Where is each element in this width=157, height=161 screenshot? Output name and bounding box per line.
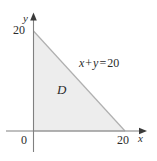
equation-plus-sign: + xyxy=(84,56,93,70)
figure-container: y x 20 20 0 D x+y=20 xyxy=(0,0,157,161)
x-axis-label: x xyxy=(138,133,143,144)
equation-equals-sign: = xyxy=(98,56,107,70)
region-d-label: D xyxy=(57,83,66,96)
equation-constant: 20 xyxy=(107,56,119,70)
x-axis-tick-label-20: 20 xyxy=(117,134,129,146)
origin-label: 0 xyxy=(21,134,27,146)
line-equation-label: x+y=20 xyxy=(79,57,119,69)
y-axis-tick-label-20: 20 xyxy=(13,24,25,36)
y-axis-arrowhead xyxy=(30,13,37,21)
